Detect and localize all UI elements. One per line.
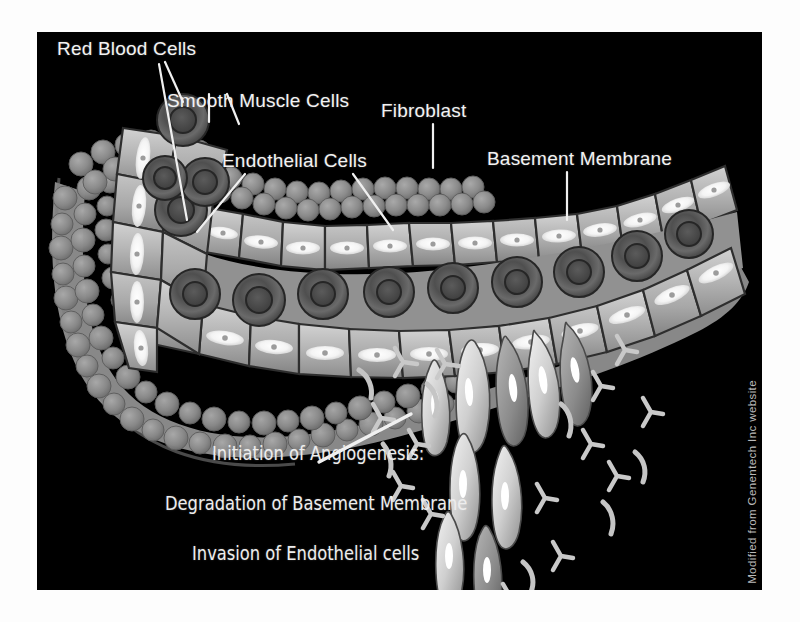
- caption-line-invasion: Invasion of Endothelial cells: [192, 542, 419, 565]
- illustration-panel: Red Blood Cells Smooth Muscle Cells Endo…: [37, 32, 762, 590]
- caption-line-degradation: Degradation of Basement Membrane: [165, 492, 467, 515]
- caption-line-initiation: Initiation of Angiogenesis:: [212, 442, 424, 465]
- label-basement-membrane: Basement Membrane: [487, 148, 672, 170]
- label-smooth-muscle-cells: Smooth Muscle Cells: [167, 90, 349, 112]
- label-endothelial-cells: Endothelial Cells: [222, 150, 367, 172]
- label-fibroblast: Fibroblast: [381, 100, 466, 122]
- attribution-text: Modified from Genentech Inc website: [746, 380, 758, 584]
- figure-root: Red Blood Cells Smooth Muscle Cells Endo…: [0, 0, 800, 622]
- label-red-blood-cells: Red Blood Cells: [57, 38, 196, 60]
